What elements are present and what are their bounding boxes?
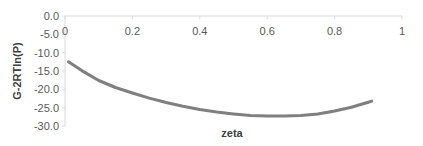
- y-tick-label: -25.0: [34, 102, 59, 114]
- series-line: [68, 62, 371, 116]
- y-axis: 0.0-5.0-10.0-15.0-20.0-25.0-30.0: [34, 10, 65, 132]
- chart: 0.0-5.0-10.0-15.0-20.0-25.0-30.0 00.20.4…: [0, 0, 423, 146]
- y-tick-label: -10.0: [34, 47, 59, 59]
- x-tick-label: 0.2: [125, 25, 140, 37]
- y-axis-title: G-2RTln(P): [11, 42, 23, 100]
- x-tick-label: 0.6: [260, 25, 275, 37]
- plot-area: [68, 62, 371, 116]
- x-tick-label: 0: [62, 25, 68, 37]
- y-tick-label: -15.0: [34, 65, 59, 77]
- x-axis: 00.20.40.60.81: [62, 16, 405, 37]
- x-tick-label: 0.4: [192, 25, 207, 37]
- y-tick-label: -5.0: [40, 28, 59, 40]
- x-tick-label: 0.8: [327, 25, 342, 37]
- x-axis-title: zeta: [221, 127, 243, 139]
- x-tick-label: 1: [399, 25, 405, 37]
- y-tick-label: 0.0: [44, 10, 59, 22]
- y-tick-label: -20.0: [34, 83, 59, 95]
- y-tick-label: -30.0: [34, 120, 59, 132]
